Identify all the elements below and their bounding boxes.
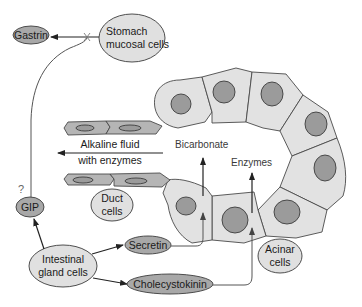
alkaline-fluid-label: Alkaline fluid — [81, 138, 140, 150]
secretin-label: Secretin — [129, 239, 168, 251]
nucleus-icon — [222, 207, 248, 233]
intestinal-to-gip-arrow — [34, 219, 44, 249]
nucleus-icon — [171, 94, 191, 114]
gip-label: GIP — [21, 201, 39, 213]
acinar-cells-label-line2: cells — [269, 256, 290, 268]
nucleus-icon — [125, 178, 147, 184]
nucleus-icon — [305, 112, 327, 136]
intestinal-to-cck-arrow — [93, 278, 127, 284]
nucleus-icon — [176, 197, 196, 215]
nucleus-icon — [76, 125, 94, 131]
enzymes-label: Enzymes — [231, 157, 272, 168]
nucleus-icon — [213, 81, 235, 103]
acinus — [154, 68, 345, 243]
stomach-label: Stomach — [106, 25, 148, 37]
gastrin-label: Gastrin — [14, 29, 48, 41]
alkaline-fluid-label-line2: with enzymes — [77, 154, 142, 166]
nucleus-icon — [119, 125, 141, 131]
duct-cells-label: Duct — [101, 192, 123, 204]
intestinal-label: Intestinal — [42, 253, 84, 265]
intestinal-to-secretin-arrow — [92, 245, 123, 254]
gip-question-mark: ? — [18, 183, 24, 195]
nucleus-icon — [73, 177, 93, 183]
nucleus-icon — [274, 200, 300, 224]
acinar-cells-label: Acinar — [265, 243, 295, 255]
intestinal-label-line2: gland cells — [38, 266, 88, 278]
stomach-label-line2: mucosal cells — [106, 38, 169, 50]
bicarbonate-label: Bicarbonate — [175, 139, 229, 150]
pancreas-secretion-diagram: Alkaline fluid with enzymes Bicarbonate … — [0, 0, 362, 307]
nucleus-icon — [261, 82, 283, 106]
cholecystokinin-label: Cholecystokinin — [133, 278, 207, 290]
nucleus-icon — [314, 155, 336, 181]
duct-cells-label-line2: cells — [101, 205, 122, 217]
